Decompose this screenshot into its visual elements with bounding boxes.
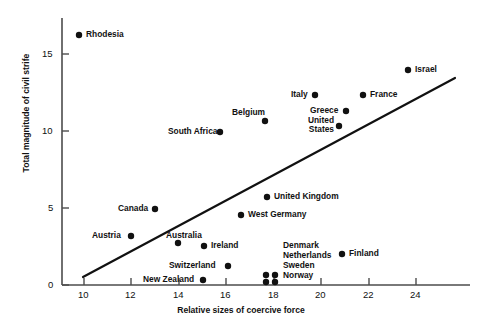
point-label-greece: Greece	[310, 106, 338, 115]
point-italy[interactable]	[312, 92, 318, 98]
scatter-plot-figure: 0 5 10 15 10 12 14 16 18 20 22 24 Total …	[0, 0, 482, 326]
x-tick-label-24: 24	[410, 289, 421, 300]
x-axis-ticks	[84, 278, 416, 285]
y-tick-label-15: 15	[42, 48, 53, 59]
x-tick-label-12: 12	[125, 289, 136, 300]
point-denmark[interactable]	[263, 272, 269, 278]
point-switzerland[interactable]	[225, 263, 231, 269]
point-label-netherlands: Netherlands	[283, 251, 331, 260]
x-axis-title: Relative sizes of coercive force	[0, 305, 482, 315]
point-label-finland: Finland	[349, 249, 379, 258]
point-label-south-africa: South Africa	[168, 127, 217, 136]
point-label-rhodesia: Rhodesia	[86, 30, 124, 39]
point-rhodesia[interactable]	[76, 32, 82, 38]
y-axis-ticks	[62, 54, 69, 285]
point-finland[interactable]	[339, 251, 345, 257]
y-tick-label-10: 10	[42, 125, 53, 136]
y-tick-label-0: 0	[48, 279, 53, 290]
point-canada[interactable]	[152, 206, 158, 212]
point-label-new-zealand: New Zealand	[143, 275, 194, 284]
point-label-israel: Israel	[415, 65, 437, 74]
point-label-belgium: Belgium	[232, 108, 265, 117]
point-norway[interactable]	[272, 279, 278, 285]
point-label-norway: Norway	[283, 271, 313, 280]
point-label-italy: Italy	[291, 90, 308, 99]
point-label-sweden: Sweden	[283, 261, 315, 270]
point-israel[interactable]	[405, 67, 411, 73]
y-tick-label-5: 5	[48, 202, 53, 213]
x-tick-label-10: 10	[78, 289, 89, 300]
point-label-canada: Canada	[118, 204, 148, 213]
point-australia[interactable]	[175, 240, 181, 246]
point-label-austria: Austria	[92, 231, 121, 240]
point-label-denmark: Denmark	[283, 241, 319, 250]
x-tick-label-18: 18	[268, 289, 279, 300]
point-netherlands[interactable]	[272, 272, 278, 278]
x-tick-label-20: 20	[315, 289, 326, 300]
point-label-united-states: United States	[304, 116, 334, 135]
point-united-states[interactable]	[336, 123, 342, 129]
point-label-france: France	[370, 90, 397, 99]
x-tick-label-16: 16	[220, 289, 231, 300]
point-label-australia: Australia	[166, 231, 202, 240]
point-west-germany[interactable]	[238, 212, 244, 218]
point-label-switzerland: Switzerland	[169, 261, 216, 270]
point-south-africa[interactable]	[217, 129, 223, 135]
point-belgium[interactable]	[262, 118, 268, 124]
point-greece[interactable]	[343, 108, 349, 114]
point-united-kingdom[interactable]	[264, 194, 270, 200]
point-label-united-kingdom: United Kingdom	[274, 192, 339, 201]
point-new-zealand[interactable]	[200, 277, 206, 283]
point-austria[interactable]	[128, 233, 134, 239]
point-label-ireland: Ireland	[211, 241, 238, 250]
plot-canvas	[0, 0, 482, 326]
x-tick-label-22: 22	[363, 289, 374, 300]
x-tick-label-14: 14	[173, 289, 184, 300]
point-ireland[interactable]	[201, 243, 207, 249]
regression-trendline	[83, 78, 455, 277]
point-france[interactable]	[360, 92, 366, 98]
y-axis-title: Total magnitude of civil strife	[21, 43, 31, 183]
point-label-west-germany: West Germany	[248, 210, 307, 219]
point-sweden[interactable]	[263, 279, 269, 285]
